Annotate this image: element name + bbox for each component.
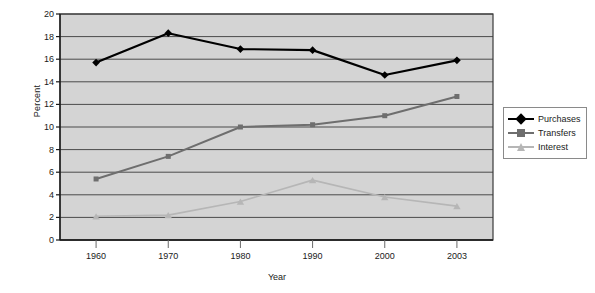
data-point-marker bbox=[238, 125, 243, 130]
legend-marker-diamond-icon bbox=[508, 113, 534, 125]
legend-label: Transfers bbox=[538, 128, 576, 138]
legend-item-transfers[interactable]: Transfers bbox=[508, 126, 581, 140]
data-point-marker bbox=[310, 122, 315, 127]
legend-marker-triangle-icon bbox=[508, 141, 534, 153]
x-axis-title: Year bbox=[60, 272, 494, 282]
legend-label: Interest bbox=[538, 142, 568, 152]
data-point-marker bbox=[94, 176, 99, 181]
legend-item-interest[interactable]: Interest bbox=[508, 140, 581, 154]
data-point-marker bbox=[454, 94, 459, 99]
data-point-marker bbox=[382, 113, 387, 118]
legend-label: Purchases bbox=[538, 114, 581, 124]
legend-marker-square-icon bbox=[508, 127, 534, 139]
data-point-marker bbox=[166, 154, 171, 159]
line-chart: Percent 20181614121086420 19601970198019… bbox=[0, 0, 595, 293]
chart-legend: Purchases Transfers Interest bbox=[503, 107, 587, 159]
legend-item-purchases[interactable]: Purchases bbox=[508, 112, 581, 126]
